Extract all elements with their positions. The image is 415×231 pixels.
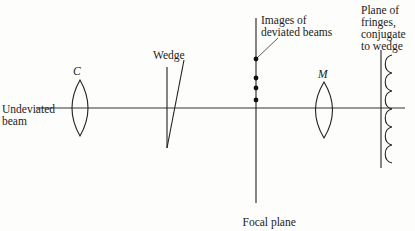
wedge: [167, 60, 184, 148]
plane-of-fringes-label: Plane of fringes, conjugate to wedge: [361, 4, 406, 52]
image-dot: [254, 76, 259, 81]
lens-m-label: M: [318, 68, 328, 80]
fringe-scallops: [385, 55, 392, 163]
lens-c-label: C: [73, 65, 81, 77]
images-leader-line: [258, 38, 278, 57]
images-of-deviated-beams-label: Images of deviated beams: [261, 14, 332, 38]
focal-plane-label-line1: Focal plane: [243, 216, 296, 228]
lens-m: [316, 82, 333, 138]
image-dot: [254, 98, 259, 103]
image-dot: [254, 86, 259, 91]
undeviated-beam-label: Undeviated beam: [2, 103, 55, 127]
optical-diagram: Undeviated beam C Wedge Images of deviat…: [0, 0, 415, 231]
diagram-graphics: [0, 0, 415, 231]
wedge-label: Wedge: [153, 49, 185, 61]
image-dot: [254, 57, 259, 62]
focal-plane-label: Focal plane of M: [231, 204, 296, 231]
